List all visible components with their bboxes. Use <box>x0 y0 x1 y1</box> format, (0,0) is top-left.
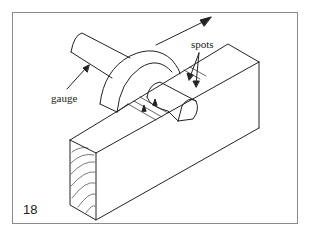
wood-block <box>70 44 259 220</box>
spots-label: spots <box>191 38 214 50</box>
spots-pointer-arrows <box>187 53 199 87</box>
end-grain-hatching <box>71 148 95 214</box>
marking-gauge-illustration <box>0 0 309 232</box>
gauge-pointer-arrow <box>67 65 89 89</box>
gauge-label: gauge <box>51 92 77 104</box>
figure-number: 18 <box>23 202 37 217</box>
gauge-stem <box>71 33 130 78</box>
gauge-head <box>100 51 180 112</box>
